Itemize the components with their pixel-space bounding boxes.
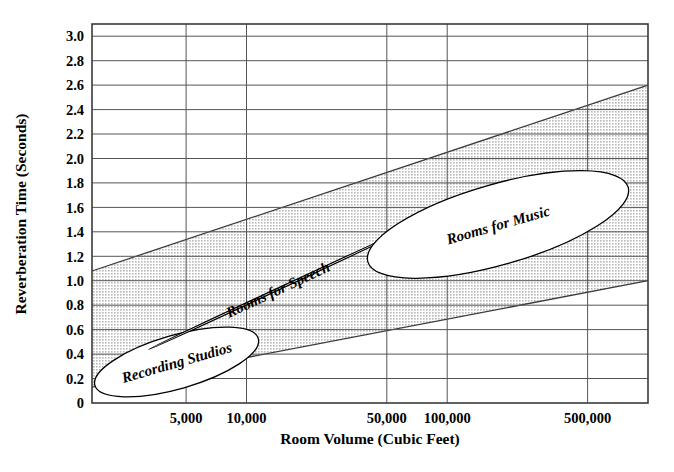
y-tick-label: 1.4 — [66, 224, 84, 240]
y-tick-label: 0.2 — [66, 371, 84, 387]
y-tick-label: 1.2 — [66, 249, 84, 265]
x-tick-label: 50,000 — [367, 410, 407, 426]
y-tick-label: 2.6 — [66, 77, 84, 93]
y-tick-label: 0.4 — [66, 346, 84, 362]
x-axis-title: Room Volume (Cubic Feet) — [280, 430, 460, 448]
y-tick-label: 1.0 — [66, 273, 84, 289]
y-tick-label: 1.8 — [66, 175, 84, 191]
y-axis-tick-labels: 3.02.82.62.42.22.01.81.61.41.21.00.80.60… — [66, 28, 84, 411]
y-tick-label: 2.4 — [66, 102, 84, 118]
y-tick-label: 2.0 — [66, 151, 84, 167]
y-tick-label: 2.2 — [66, 126, 84, 142]
x-tick-label: 5,000 — [170, 410, 203, 426]
x-tick-label: 10,000 — [227, 410, 267, 426]
y-tick-label: 0.8 — [66, 297, 84, 313]
y-axis-title: Reverberation Time (Seconds) — [12, 114, 30, 315]
x-axis-tick-labels: 5,00010,00050,000100,000500,000 — [170, 410, 611, 426]
y-tick-label: 3.0 — [66, 28, 84, 44]
chart-canvas: Recording StudiosRooms for SpeechRooms f… — [0, 0, 674, 472]
y-tick-label: 0.6 — [66, 322, 84, 338]
y-tick-label: 2.8 — [66, 53, 84, 69]
reverberation-time-chart: Recording StudiosRooms for SpeechRooms f… — [0, 0, 674, 472]
y-tick-label: 0 — [77, 395, 84, 411]
x-tick-label: 100,000 — [424, 410, 471, 426]
y-tick-label: 1.6 — [66, 200, 84, 216]
x-tick-label: 500,000 — [564, 410, 611, 426]
